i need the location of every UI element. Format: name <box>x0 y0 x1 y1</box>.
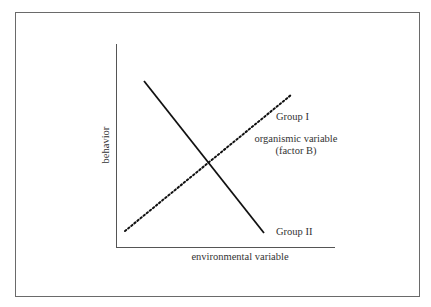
factor-line-2: (factor B) <box>248 145 344 157</box>
group2-solid-line <box>144 81 264 233</box>
y-axis-label: behavior <box>100 115 112 175</box>
group2-label: Group II <box>276 226 312 238</box>
factor-annotation: organismic variable (factor B) <box>248 133 344 157</box>
group1-label: Group I <box>276 111 309 123</box>
factor-line-1: organismic variable <box>248 133 344 145</box>
x-axis-label: environmental variable <box>170 251 310 263</box>
